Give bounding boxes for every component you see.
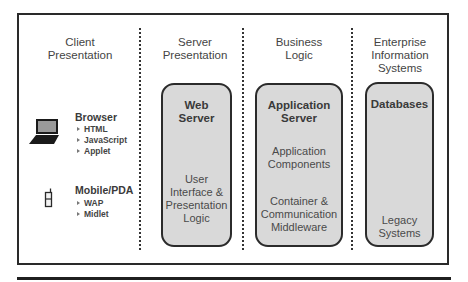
column-title-line: Server <box>146 36 244 49</box>
legacy-systems-text: Legacy Systems <box>367 214 432 240</box>
application-components-text: Application Components <box>257 145 341 171</box>
web-server-box: Web Server User Interface & Presentation… <box>161 83 232 247</box>
bullet-arrow-icon <box>77 138 80 142</box>
databases-title: Databases <box>367 98 432 111</box>
application-server-title: Application Server <box>257 99 341 125</box>
column-title-line: Client <box>28 36 132 49</box>
column-title-business: Business Logic <box>250 36 348 62</box>
client-label-mobile: Mobile/PDA <box>75 184 133 196</box>
column-title-client: Client Presentation <box>28 36 132 62</box>
column-title-server: Server Presentation <box>146 36 244 62</box>
container-middleware-text: Container & Communication Middleware <box>257 195 341 234</box>
client-label-browser: Browser <box>75 111 117 123</box>
list-item: WAP <box>77 198 109 209</box>
databases-box: Databases Legacy Systems <box>365 82 434 247</box>
list-item: HTML <box>77 124 127 135</box>
browser-technology-list: HTML JavaScript Applet <box>77 124 127 157</box>
application-server-box: Application Server Application Component… <box>255 83 343 247</box>
laptop-icon <box>28 118 66 146</box>
column-title-line: Logic <box>250 49 348 62</box>
column-title-line: Enterprise <box>355 36 445 49</box>
bullet-arrow-icon <box>77 212 80 216</box>
list-item: JavaScript <box>77 135 127 146</box>
mobile-phone-icon <box>44 188 54 208</box>
column-divider-1 <box>139 28 141 250</box>
web-server-description: User Interface & Presentation Logic <box>163 173 230 225</box>
list-item: Applet <box>77 146 127 157</box>
column-title-eis: Enterprise Information Systems <box>355 36 445 75</box>
web-server-title: Web Server <box>163 99 230 125</box>
column-title-line: Systems <box>355 62 445 75</box>
bullet-arrow-icon <box>77 201 80 205</box>
column-divider-3 <box>351 28 353 250</box>
column-title-line: Business <box>250 36 348 49</box>
bullet-arrow-icon <box>77 149 80 153</box>
column-title-line: Information <box>355 49 445 62</box>
list-item: Midlet <box>77 209 109 220</box>
bullet-arrow-icon <box>77 127 80 131</box>
column-title-line: Presentation <box>28 49 132 62</box>
column-title-line: Presentation <box>146 49 244 62</box>
bottom-rule <box>17 277 451 280</box>
mobile-technology-list: WAP Midlet <box>77 198 109 220</box>
